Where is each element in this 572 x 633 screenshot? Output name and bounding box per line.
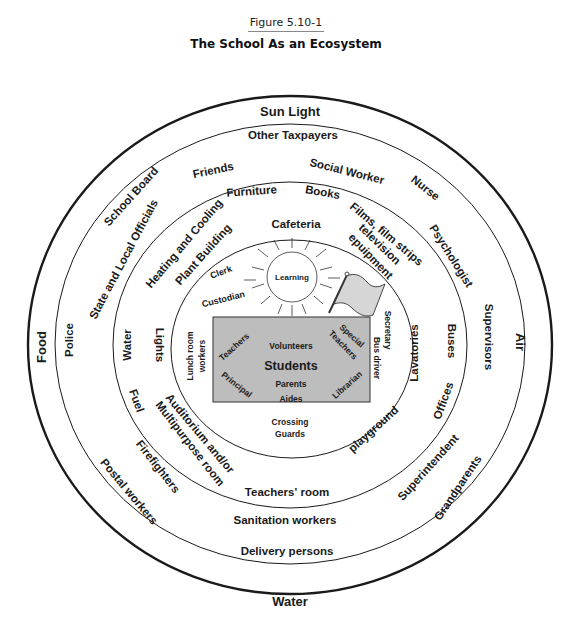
label-playground: playground [346, 404, 401, 455]
label-air: Air [513, 333, 528, 351]
label-clerk: Clerk [209, 263, 235, 280]
label-other-taxpayers: Other Taxpayers [248, 129, 338, 141]
label-state-local: State and Local Officials [87, 197, 160, 321]
label-volunteers: Volunteers [269, 341, 313, 351]
label-lunch-2: workers [197, 339, 207, 373]
label-secretary: Secretary [383, 311, 393, 350]
label-aides: Aides [279, 394, 302, 404]
label-supervisors: Supervisors [483, 304, 495, 370]
label-teachers-room: Teachers' room [245, 486, 329, 498]
label-sanitation-workers: Sanitation workers [234, 514, 337, 526]
label-social-worker: Social Worker [308, 156, 386, 186]
label-lavatories: Lavatories [408, 324, 420, 382]
label-books: Books [304, 183, 341, 201]
label-police: Police [63, 323, 75, 357]
label-firefighters: Firefighters [134, 438, 182, 495]
label-bus-driver: Bus driver [372, 337, 382, 380]
label-fuel: Fuel [127, 387, 146, 413]
label-offices: Offices [431, 380, 456, 421]
flag-icon [329, 272, 385, 316]
label-food: Food [34, 331, 49, 363]
label-parents: Parents [275, 379, 306, 389]
label-sun-light: Sun Light [260, 104, 321, 119]
label-learning: Learning [275, 273, 309, 282]
label-postal-workers: Postal workers [98, 456, 160, 526]
label-lights: Lights [154, 328, 166, 363]
label-psychologist: Psychologist [427, 222, 475, 289]
label-water-outer: Water [272, 594, 308, 609]
ecosystem-diagram: Sun Light Water Food Air Other Taxpayers… [0, 0, 572, 633]
label-custodian: Custodian [201, 289, 246, 309]
label-buses: Buses [446, 324, 458, 359]
label-water-inner: Water [121, 329, 133, 361]
label-lunch-1: Lunch room [185, 331, 195, 381]
label-furniture: Furniture [226, 183, 277, 198]
label-crossing-1: Crossing [272, 417, 309, 427]
label-friends: Friends [192, 160, 235, 180]
label-crossing-2: Guards [275, 429, 305, 439]
label-cafeteria: Cafeteria [271, 218, 321, 230]
label-delivery-persons: Delivery persons [241, 545, 334, 557]
label-students: Students [264, 359, 318, 373]
label-nurse: Nurse [409, 173, 442, 203]
